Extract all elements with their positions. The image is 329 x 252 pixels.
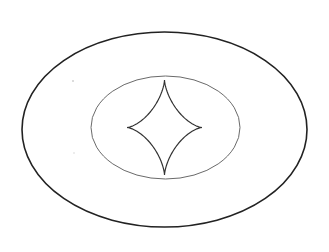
scan-specks [72, 80, 75, 154]
inner-ellipse [91, 76, 240, 179]
speck [73, 152, 74, 153]
outer-ellipse [22, 32, 307, 227]
diagram-canvas [0, 0, 329, 252]
astroid-curve [127, 80, 202, 175]
speck [72, 80, 74, 82]
